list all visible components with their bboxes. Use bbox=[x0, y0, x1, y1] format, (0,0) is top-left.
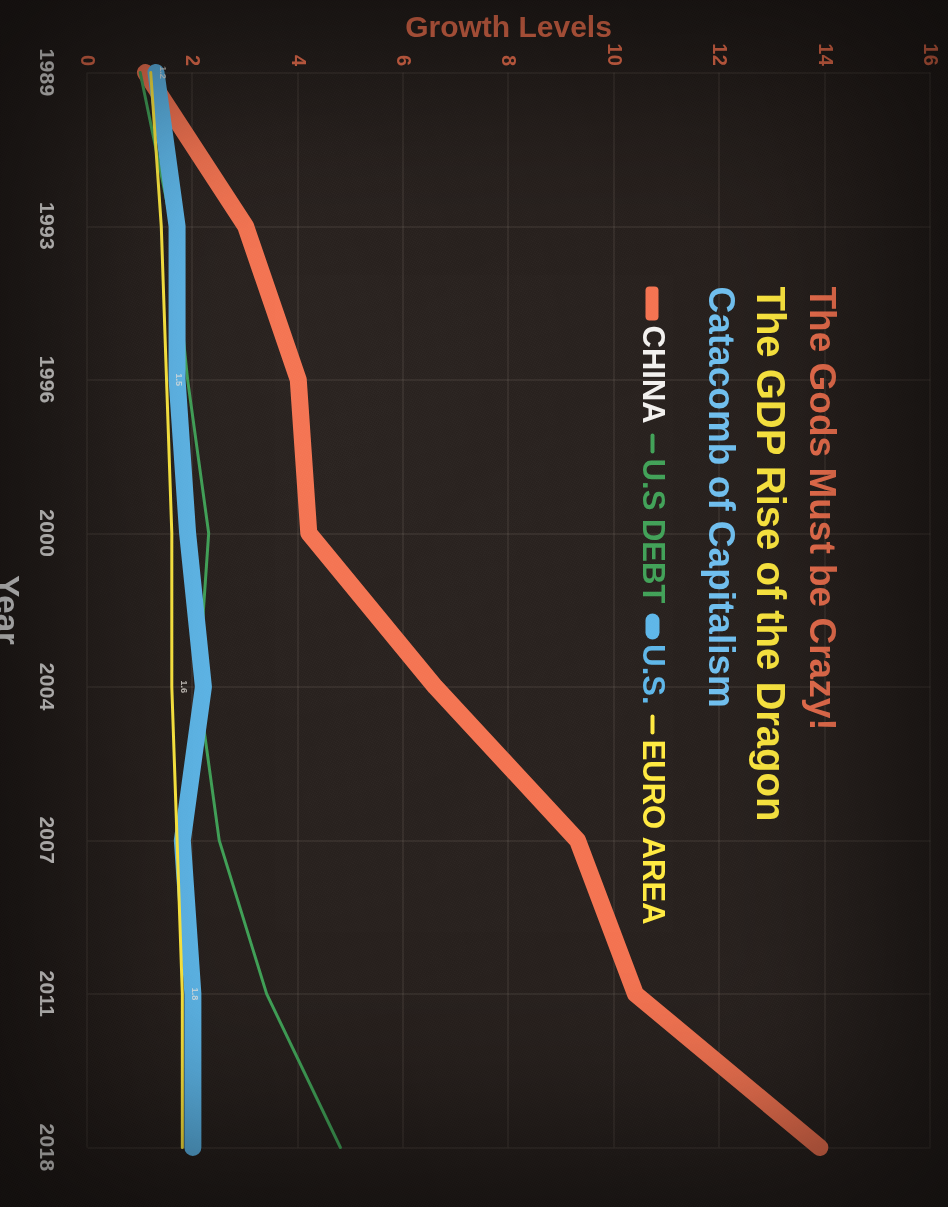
legend-swatch-us-debt-icon bbox=[650, 433, 654, 453]
legend-label-us-debt: U.S DEBT bbox=[634, 458, 670, 603]
title-line-1: The Gods Must be Crazy! bbox=[801, 286, 840, 821]
chart-legend: CHINA U.S DEBT U.S. EURO AREA bbox=[634, 286, 670, 924]
title-line-2: The GDP Rise of the Dragon bbox=[749, 286, 791, 821]
rotated-chart-container: 1.21.51.61.8 0246810121416 1989199319962… bbox=[0, 0, 948, 1207]
legend-item-us[interactable]: U.S. bbox=[634, 603, 670, 704]
data-point-label: 1.2 bbox=[157, 66, 167, 79]
legend-item-china[interactable]: CHINA bbox=[634, 286, 670, 423]
y-axis-tick-label: 14 bbox=[813, 6, 836, 66]
legend-item-us-debt[interactable]: U.S DEBT bbox=[634, 423, 670, 603]
y-axis-tick-label: 12 bbox=[707, 6, 730, 66]
x-axis-tick-label: 2011 bbox=[34, 948, 58, 1038]
legend-label-china: CHINA bbox=[634, 325, 670, 423]
title-line-3: Catacomb of Capitalism bbox=[700, 286, 739, 821]
y-axis-tick-label: 4 bbox=[286, 6, 309, 66]
y-axis-title: Growth Levels bbox=[405, 9, 612, 43]
chart-canvas: 1.21.51.61.8 0246810121416 1989199319962… bbox=[0, 0, 948, 1207]
data-point-label: 1.8 bbox=[189, 987, 199, 1000]
x-axis-title: Year bbox=[0, 72, 25, 1147]
y-axis-tick-label: 2 bbox=[180, 6, 203, 66]
x-axis-tick-label: 1993 bbox=[34, 181, 58, 271]
legend-label-us: U.S. bbox=[634, 644, 670, 704]
y-axis-tick-label: 16 bbox=[918, 6, 941, 66]
x-axis-tick-label: 2000 bbox=[34, 488, 58, 578]
x-axis-tick-label: 2007 bbox=[34, 795, 58, 885]
y-axis-tick-label: 0 bbox=[75, 6, 98, 66]
data-point-label: 1.6 bbox=[178, 680, 188, 693]
legend-item-euro-area[interactable]: EURO AREA bbox=[634, 704, 670, 924]
legend-swatch-us-icon bbox=[645, 613, 659, 639]
data-point-label: 1.5 bbox=[173, 373, 183, 386]
x-axis-tick-label: 1996 bbox=[34, 334, 58, 424]
chart-title-block: The Gods Must be Crazy! The GDP Rise of … bbox=[700, 286, 840, 821]
x-axis-tick-label: 2004 bbox=[34, 641, 58, 731]
legend-swatch-china-icon bbox=[646, 286, 659, 320]
legend-label-euro-area: EURO AREA bbox=[634, 739, 670, 924]
x-axis-tick-label: 2018 bbox=[34, 1102, 58, 1192]
x-axis-tick-label: 1989 bbox=[34, 27, 58, 117]
legend-swatch-euro-area-icon bbox=[650, 714, 654, 734]
